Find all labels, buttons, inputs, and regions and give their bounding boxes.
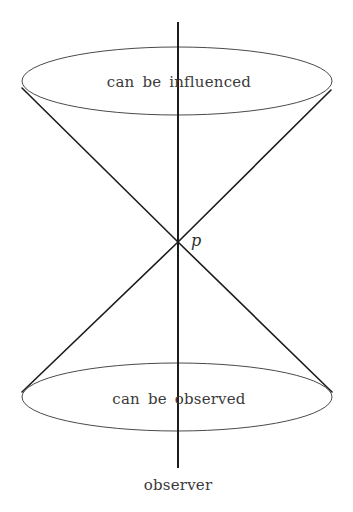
- observer-label: observer: [144, 476, 213, 494]
- past-cone-label: can be observed: [112, 390, 246, 408]
- future-cone-slant-right: [178, 90, 331, 242]
- future-cone-label: can be influenced: [107, 73, 252, 91]
- lightcone-canvas: can be influenced can be observed observ…: [0, 0, 353, 512]
- lightcone-diagram: can be influenced can be observed observ…: [0, 0, 353, 512]
- past-cone-slant-left: [22, 242, 178, 392]
- event-point-label-p: p: [191, 231, 201, 250]
- past-cone-slant-right: [178, 242, 332, 392]
